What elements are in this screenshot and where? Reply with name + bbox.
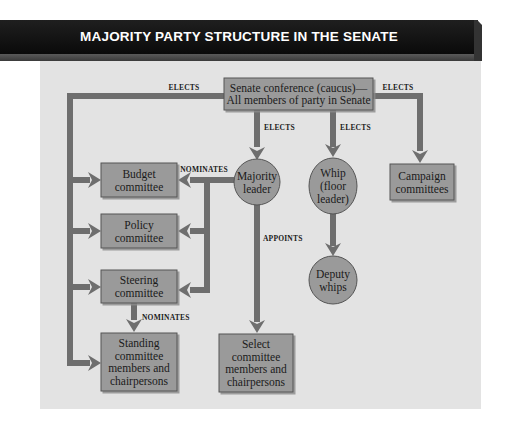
budget-committee-box-text: committee — [115, 181, 164, 193]
campaign-committees-box-text: Campaign — [398, 170, 446, 183]
arrowhead-leader — [249, 147, 265, 160]
policy-committee-box-text: committee — [115, 232, 164, 244]
standing-committee-box: Standingcommitteemembers andchairpersons — [101, 333, 177, 391]
whip-node-text: leader) — [317, 193, 349, 206]
arrowhead-budget-nom — [178, 172, 191, 188]
campaign-committees-box-text: committees — [395, 183, 449, 195]
majority-leader-node-text: Majority — [237, 170, 277, 183]
campaign-committees-box: Campaigncommittees — [390, 164, 454, 200]
edge-elects-campaign — [373, 96, 420, 151]
label-appoints: APPOINTS — [263, 234, 303, 243]
select-committee-box-text: Select — [242, 338, 271, 350]
conference-box-text: All members of party in Senate — [226, 94, 370, 107]
conference-box: Senate conference (caucus)—All members o… — [224, 78, 373, 110]
steering-committee-box-text: Steering — [120, 274, 159, 287]
standing-committee-box-text: Standing — [119, 337, 160, 350]
select-committee-box-text: chairpersons — [227, 376, 286, 389]
standing-committee-box-text: members and — [108, 362, 170, 374]
steering-committee-box: Steeringcommittee — [101, 270, 177, 303]
budget-committee-box-text: Budget — [122, 168, 156, 181]
deputy-whips-node: Deputywhips — [309, 256, 357, 304]
whip-node: Whip(floorleader) — [309, 158, 357, 214]
select-committee-box-text: committee — [232, 351, 281, 363]
arrowhead-campaign — [412, 150, 428, 163]
standing-committee-box-text: committee — [115, 350, 164, 362]
policy-committee-box-text: Policy — [124, 219, 154, 232]
label-elects-whip: ELECTS — [340, 123, 371, 132]
majority-leader-node: Majorityleader — [234, 159, 280, 205]
label-elects-leader: ELECTS — [264, 123, 295, 132]
label-elects-left: ELECTS — [169, 83, 200, 92]
whip-node-text: (floor — [320, 180, 346, 193]
arrowhead-policy-nom — [178, 223, 191, 239]
arrowhead-standing-nom — [126, 319, 142, 332]
select-committee-box-text: members and — [225, 363, 287, 375]
org-chart: Senate conference (caucus)—All members o… — [0, 0, 506, 426]
steering-committee-box-text: committee — [115, 287, 164, 299]
whip-node-text: Whip — [320, 167, 346, 180]
label-elects-right: ELECTS — [383, 83, 414, 92]
label-nominates-leader: NOMINATES — [180, 165, 228, 174]
policy-committee-box: Policycommittee — [101, 214, 177, 248]
select-committee-box: Selectcommitteemembers andchairpersons — [219, 334, 293, 392]
standing-committee-box-text: chairpersons — [110, 375, 169, 388]
edge-nominates-trunk — [190, 180, 207, 290]
budget-committee-box: Budgetcommittee — [101, 163, 177, 197]
arrowhead-steering-nom — [178, 282, 191, 298]
deputy-whips-node-text: whips — [319, 281, 347, 294]
majority-leader-node-text: leader — [243, 183, 271, 195]
deputy-whips-node-text: Deputy — [316, 268, 350, 281]
label-nominates-steering: NOMINATES — [142, 313, 190, 322]
